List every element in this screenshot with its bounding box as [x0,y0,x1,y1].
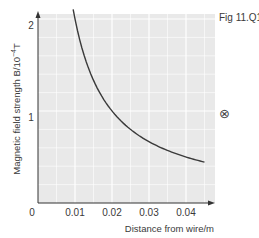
x-tick-0: 0 [29,207,35,218]
x-tick-0.01: 0.01 [65,207,85,218]
y-tick-2: 2 [28,20,34,31]
x-tick-0.04: 0.04 [176,207,196,218]
x-axis-title: Distance from wire/m [125,223,214,234]
plot-area [38,14,215,203]
x-tick-0.03: 0.03 [139,207,159,218]
y-axis-title-main: Magnetic field strength B/10 [11,57,22,175]
y-axis-title: Magnetic field strength B/10−4T [10,43,22,175]
y-axis-title-exponent: −4 [10,49,17,57]
y-axis-title-unit: T [11,43,22,49]
figure-label: Fig 11.Q1 [219,12,259,23]
current-into-page-icon: ⊗ [219,106,230,121]
y-tick-1: 1 [28,112,34,123]
x-tick-0.02: 0.02 [102,207,122,218]
